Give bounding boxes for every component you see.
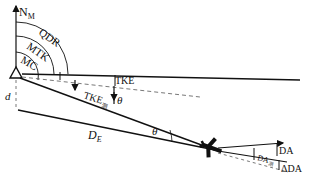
tke-measured-label: TKE测 xyxy=(81,89,110,110)
de-line xyxy=(18,110,215,150)
theta-arc xyxy=(170,130,172,142)
theta-label-1: θ xyxy=(117,94,123,106)
d-label: d xyxy=(5,90,11,102)
station-triangle-icon xyxy=(10,67,22,78)
theta-label-2: θ xyxy=(152,125,158,137)
dashed-track-line xyxy=(22,77,200,97)
tke-label: TKE xyxy=(115,75,134,86)
navigation-diagram: NM QDR MTK MC d TKE TKE测 θ θ DE DA DA测 Δ… xyxy=(0,0,311,184)
de-label: DE xyxy=(87,128,102,144)
da-label: DA xyxy=(279,145,294,156)
reference-line xyxy=(22,74,300,80)
heading-arrow xyxy=(218,143,283,148)
delta-da-label: ΔDA xyxy=(281,163,303,174)
track-line xyxy=(20,78,215,150)
north-label: NM xyxy=(19,5,35,21)
